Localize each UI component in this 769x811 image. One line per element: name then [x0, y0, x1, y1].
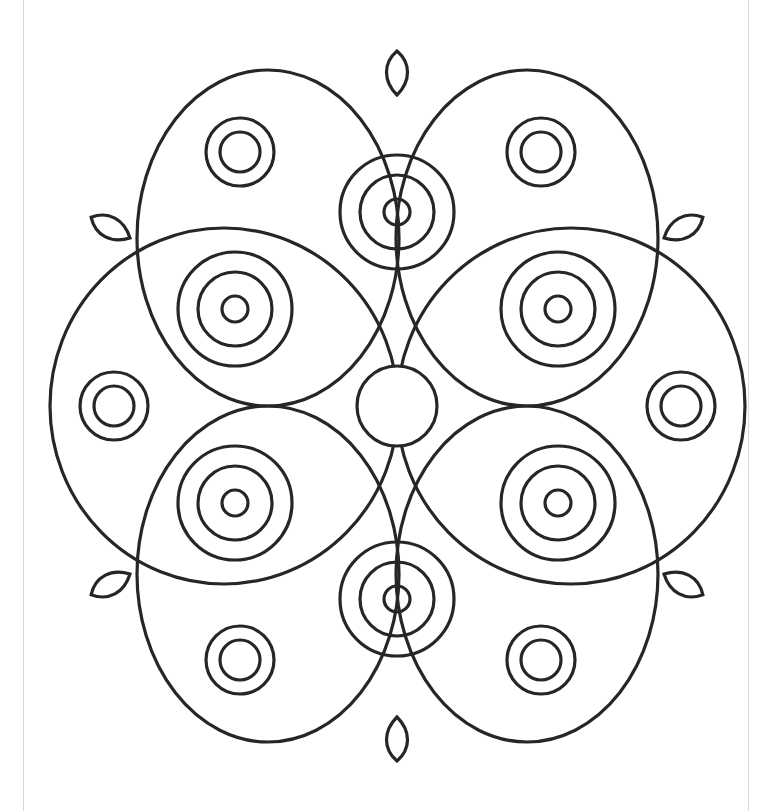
center-circle	[357, 366, 437, 446]
ring-middle	[198, 272, 272, 346]
ring-inner	[222, 490, 248, 516]
ring-middle	[198, 466, 272, 540]
ring-outer	[206, 118, 274, 186]
leaf-ornament	[659, 208, 708, 247]
ring-outer	[501, 252, 615, 366]
ring-outer	[507, 118, 575, 186]
ring-inner	[661, 386, 701, 426]
ring-inner	[545, 490, 571, 516]
petal-ellipse	[397, 228, 745, 584]
ring-outer	[647, 372, 715, 440]
leaf-ornament	[387, 717, 408, 761]
ring-inner	[94, 386, 134, 426]
ring-inner	[521, 640, 561, 680]
ring-inner	[220, 640, 260, 680]
ring-middle	[521, 466, 595, 540]
ring-outer	[178, 252, 292, 366]
ring-outer	[206, 626, 274, 694]
leaf-ornament	[659, 565, 708, 604]
leaf-ornament	[86, 565, 135, 604]
petal-ellipse	[50, 228, 398, 584]
mandala-drawing	[0, 0, 769, 811]
leaf-ornament	[86, 208, 135, 247]
ring-middle	[521, 272, 595, 346]
ring-outer	[80, 372, 148, 440]
ring-outer	[178, 446, 292, 560]
ring-outer	[501, 446, 615, 560]
ring-outer	[507, 626, 575, 694]
leaf-ornament	[387, 51, 408, 95]
ring-inner	[521, 132, 561, 172]
ring-inner	[545, 296, 571, 322]
ring-inner	[222, 296, 248, 322]
ring-inner	[220, 132, 260, 172]
